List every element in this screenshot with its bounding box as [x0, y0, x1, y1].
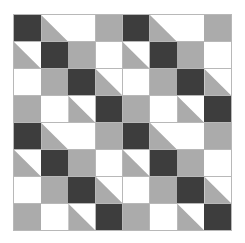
pattern-cell	[150, 96, 177, 122]
pattern-cell	[14, 177, 41, 203]
pattern-cell	[68, 204, 95, 230]
pattern-cell	[96, 123, 123, 149]
quilt-pattern-grid	[13, 14, 232, 231]
pattern-cell	[14, 123, 41, 149]
pattern-cell	[41, 69, 68, 95]
pattern-cell	[150, 42, 177, 68]
pattern-cell	[177, 150, 204, 176]
pattern-cell	[41, 42, 68, 68]
pattern-cell	[177, 96, 204, 122]
pattern-cell	[96, 42, 123, 68]
pattern-cell	[41, 204, 68, 230]
pattern-cell	[177, 15, 204, 41]
pattern-cell	[68, 96, 95, 122]
pattern-cell	[177, 177, 204, 203]
pattern-cell	[123, 42, 150, 68]
pattern-cell	[96, 69, 123, 95]
pattern-figure	[0, 0, 245, 243]
pattern-cell	[14, 204, 41, 230]
pattern-cell	[150, 15, 177, 41]
pattern-cell	[68, 15, 95, 41]
pattern-cell	[14, 15, 41, 41]
pattern-cell	[204, 15, 231, 41]
pattern-cell	[204, 96, 231, 122]
pattern-cell	[123, 123, 150, 149]
pattern-cell	[204, 204, 231, 230]
pattern-cell	[204, 123, 231, 149]
pattern-cell	[41, 123, 68, 149]
pattern-cell	[68, 177, 95, 203]
pattern-cell	[204, 150, 231, 176]
pattern-cell	[123, 96, 150, 122]
pattern-cell	[96, 177, 123, 203]
pattern-cell	[96, 150, 123, 176]
pattern-cell	[14, 69, 41, 95]
pattern-cell	[204, 42, 231, 68]
pattern-cell	[68, 42, 95, 68]
pattern-cell	[150, 123, 177, 149]
pattern-cell	[150, 177, 177, 203]
pattern-cell	[123, 204, 150, 230]
pattern-cell	[150, 204, 177, 230]
pattern-cell	[123, 69, 150, 95]
pattern-cell	[68, 69, 95, 95]
pattern-cell	[41, 150, 68, 176]
pattern-cell	[96, 15, 123, 41]
pattern-cell	[204, 69, 231, 95]
pattern-cell	[68, 150, 95, 176]
pattern-cell	[41, 15, 68, 41]
pattern-cell	[177, 204, 204, 230]
pattern-cell	[123, 177, 150, 203]
pattern-cell	[204, 177, 231, 203]
pattern-cell	[123, 150, 150, 176]
pattern-cell	[41, 96, 68, 122]
pattern-cell	[177, 123, 204, 149]
pattern-cell	[96, 96, 123, 122]
pattern-cell	[14, 96, 41, 122]
pattern-cell	[96, 204, 123, 230]
pattern-cell	[14, 150, 41, 176]
pattern-cell	[14, 42, 41, 68]
pattern-cell	[41, 177, 68, 203]
pattern-cell	[150, 150, 177, 176]
pattern-cell	[177, 69, 204, 95]
pattern-cell	[68, 123, 95, 149]
pattern-cell	[123, 15, 150, 41]
pattern-cell	[150, 69, 177, 95]
pattern-cell	[177, 42, 204, 68]
